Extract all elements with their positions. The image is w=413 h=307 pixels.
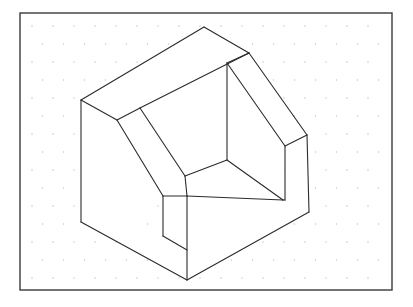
grid-dot xyxy=(325,25,327,27)
grid-dot xyxy=(63,259,65,261)
grid-dot xyxy=(325,169,327,171)
grid-dot xyxy=(63,115,65,117)
grid-dot xyxy=(336,187,338,189)
grid-dot xyxy=(378,259,380,261)
grid-dot xyxy=(147,259,149,261)
grid-dot xyxy=(199,25,201,27)
grid-dot xyxy=(84,259,86,261)
isometric-drawing-canvas xyxy=(0,0,413,307)
grid-dot xyxy=(136,277,138,279)
grid-dot xyxy=(31,241,33,243)
grid-dot xyxy=(346,25,348,27)
grid-dot xyxy=(115,25,117,27)
grid-dot xyxy=(378,223,380,225)
grid-dot xyxy=(31,25,33,27)
grid-dot xyxy=(262,25,264,27)
grid-dot xyxy=(357,43,359,45)
grid-dot xyxy=(63,79,65,81)
grid-dot xyxy=(42,223,44,225)
grid-dot xyxy=(84,79,86,81)
grid-dot xyxy=(346,169,348,171)
grid-dot xyxy=(94,241,96,243)
grid-dot xyxy=(42,187,44,189)
grid-dot xyxy=(294,79,296,81)
grid-dot xyxy=(346,205,348,207)
grid-dot xyxy=(367,61,369,63)
grid-dot xyxy=(73,169,75,171)
grid-dot xyxy=(42,259,44,261)
grid-dot xyxy=(357,259,359,261)
grid-dot xyxy=(315,259,317,261)
grid-dot xyxy=(283,25,285,27)
grid-dot xyxy=(346,61,348,63)
grid-dot xyxy=(105,79,107,81)
grid-dot xyxy=(136,25,138,27)
grid-dot xyxy=(367,241,369,243)
grid-dot xyxy=(73,241,75,243)
grid-dot xyxy=(315,79,317,81)
grid-dot xyxy=(73,277,75,279)
grid-dot xyxy=(325,61,327,63)
grid-dot xyxy=(367,97,369,99)
grid-dot xyxy=(252,43,254,45)
grid-dot xyxy=(367,133,369,135)
grid-dot xyxy=(73,205,75,207)
grid-dot xyxy=(31,169,33,171)
grid-dot xyxy=(357,79,359,81)
grid-dot xyxy=(283,97,285,99)
grid-dot xyxy=(94,25,96,27)
grid-dot xyxy=(220,25,222,27)
grid-dot xyxy=(73,97,75,99)
grid-dot xyxy=(325,241,327,243)
grid-dot xyxy=(105,43,107,45)
grid-dot xyxy=(157,205,159,207)
grid-dot xyxy=(42,151,44,153)
grid-dot xyxy=(42,115,44,117)
grid-dot xyxy=(63,151,65,153)
grid-dot xyxy=(357,151,359,153)
grid-dot xyxy=(294,259,296,261)
grid-dot xyxy=(346,277,348,279)
grid-dot xyxy=(231,259,233,261)
grid-dot xyxy=(304,241,306,243)
grid-dot xyxy=(346,97,348,99)
grid-dot xyxy=(63,43,65,45)
grid-dot xyxy=(94,61,96,63)
grid-dot xyxy=(73,133,75,135)
grid-dot xyxy=(325,97,327,99)
grid-dot xyxy=(357,223,359,225)
grid-dot xyxy=(84,43,86,45)
grid-dot xyxy=(147,223,149,225)
grid-dot xyxy=(325,133,327,135)
grid-dot xyxy=(378,43,380,45)
grid-dot xyxy=(304,277,306,279)
grid-dot xyxy=(378,115,380,117)
grid-dot xyxy=(367,277,369,279)
grid-dot xyxy=(52,241,54,243)
grid-dot xyxy=(336,115,338,117)
grid-dot xyxy=(378,79,380,81)
grid-dot xyxy=(63,223,65,225)
grid-dot xyxy=(52,97,54,99)
grid-dot xyxy=(220,277,222,279)
grid-dot xyxy=(262,241,264,243)
grid-dot xyxy=(273,79,275,81)
grid-dot xyxy=(315,223,317,225)
grid-dot xyxy=(73,61,75,63)
grid-dot xyxy=(325,205,327,207)
grid-dot xyxy=(52,169,54,171)
grid-dot xyxy=(73,25,75,27)
grid-dot xyxy=(136,61,138,63)
grid-dot xyxy=(31,97,33,99)
grid-dot xyxy=(147,43,149,45)
grid-dot xyxy=(241,25,243,27)
grid-dot xyxy=(304,61,306,63)
grid-dot xyxy=(115,61,117,63)
grid-dot xyxy=(367,25,369,27)
grid-dot xyxy=(367,205,369,207)
grid-dot xyxy=(178,277,180,279)
grid-dot xyxy=(304,25,306,27)
grid-dot xyxy=(199,277,201,279)
grid-dot xyxy=(126,259,128,261)
grid-dot xyxy=(262,277,264,279)
